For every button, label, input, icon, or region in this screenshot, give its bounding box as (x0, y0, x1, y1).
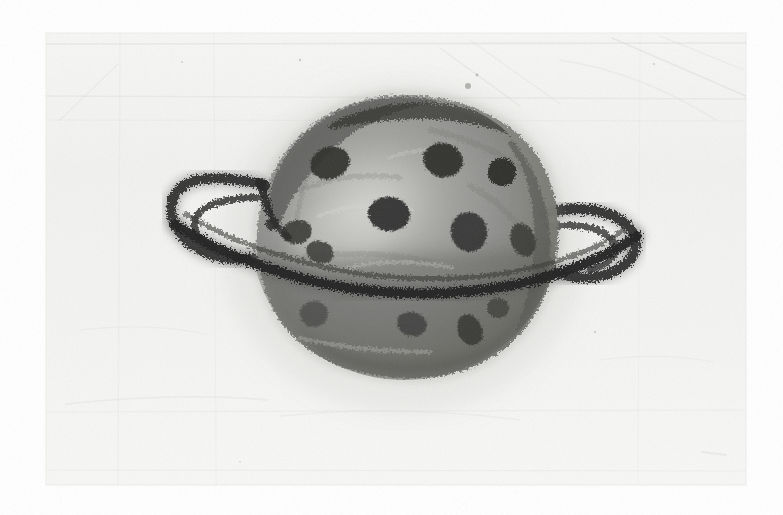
global-grain-overlay (46, 33, 746, 485)
drawing-layer (0, 0, 783, 515)
pastel-drawing-canvas: Ringed Planet (Saturn) oil pastel and gr… (0, 0, 783, 515)
